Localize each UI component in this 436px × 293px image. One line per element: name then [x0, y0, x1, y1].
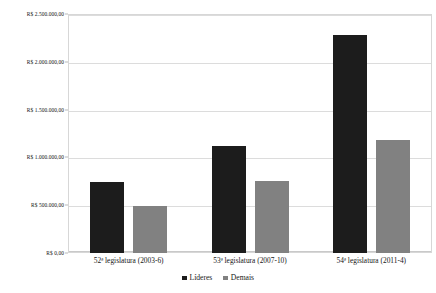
y-axis-tick-label: R$ 0,00 [46, 250, 64, 256]
y-axis-tick-label: R$ 1.500.000,00 [27, 107, 64, 113]
legend-item[interactable]: Líderes [182, 274, 212, 282]
x-axis-tick-label: 53ª legislatura (2007-10) [213, 256, 286, 265]
bar-chart: R$ 2.500.000,00R$ 2.000.000,00R$ 1.500.0… [0, 0, 436, 293]
bar-lideres-2 [212, 146, 246, 253]
y-axis-tick-label: R$ 500.000,00 [31, 202, 64, 208]
y-axis-tick-label: R$ 1.000.000,00 [27, 154, 64, 160]
legend-swatch-icon [182, 276, 187, 281]
x-axis-tick-label: 52ª legislatura (2003-6) [94, 256, 164, 265]
legend-item[interactable]: Demais [223, 274, 254, 282]
legend-swatch-icon [223, 276, 228, 281]
y-axis-tick-label: R$ 2.500.000,00 [27, 11, 64, 17]
chart-legend: LíderesDemais [0, 274, 436, 282]
x-axis-tick-label: 54ª legislatura (2011-4) [337, 256, 407, 265]
bar-demais-2 [255, 181, 289, 253]
legend-label: Líderes [190, 274, 213, 282]
bar-demais-1 [133, 206, 167, 253]
y-axis-tick-label: R$ 2.000.000,00 [27, 59, 64, 65]
legend-label: Demais [231, 274, 254, 282]
bar-lideres-3 [333, 35, 367, 253]
bars-layer [68, 14, 432, 253]
bar-lideres-1 [90, 182, 124, 253]
bar-demais-3 [376, 140, 410, 253]
